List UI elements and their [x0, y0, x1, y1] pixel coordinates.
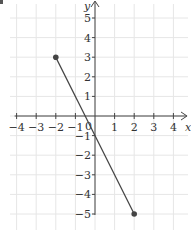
y-tick-label: 4 — [84, 32, 91, 45]
y-tick-label: −4 — [75, 188, 91, 201]
y-tick-label: 1 — [84, 90, 91, 103]
x-tick-label: −2 — [48, 121, 64, 134]
x-tick-label: 1 — [111, 121, 118, 134]
y-tick-label: 5 — [84, 12, 91, 25]
line-segment-chart: xy −4−3−2−1123454321−1−2−3−4−50 — [0, 0, 191, 234]
axes: xy — [15, 0, 191, 215]
y-tick-label: −3 — [75, 169, 91, 182]
y-tick-label: −5 — [75, 208, 91, 221]
x-axis-label: x — [185, 121, 191, 134]
endpoint-dot — [131, 211, 137, 217]
x-tick-label: −3 — [28, 121, 44, 134]
x-tick-label: 2 — [131, 121, 138, 134]
x-tick-label: 4 — [170, 121, 177, 134]
y-tick-label: −2 — [75, 149, 91, 162]
x-tick-label: −4 — [8, 121, 24, 134]
x-tick-label: 3 — [150, 121, 157, 134]
y-tick-label: 3 — [84, 51, 91, 64]
corner-fragment — [0, 0, 3, 4]
y-tick-label: 2 — [84, 71, 91, 84]
endpoint-dot — [53, 54, 59, 60]
